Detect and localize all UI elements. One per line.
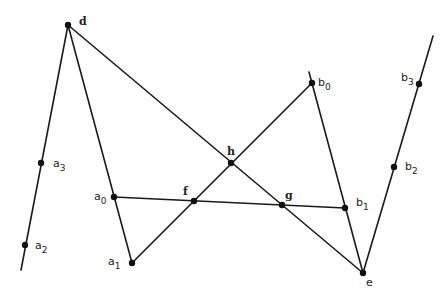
label-subscript: 3 bbox=[408, 77, 414, 87]
label-base: g bbox=[285, 189, 293, 202]
label-base: h bbox=[227, 145, 235, 158]
point-h bbox=[228, 160, 234, 166]
point-b0 bbox=[309, 80, 315, 86]
segment-line bbox=[363, 36, 433, 273]
segment-line bbox=[132, 83, 312, 263]
label-subscript: 0 bbox=[101, 196, 107, 206]
point-a1 bbox=[129, 260, 135, 266]
label-b2: b2 bbox=[405, 160, 418, 176]
label-g: g bbox=[285, 189, 293, 202]
point-a0 bbox=[111, 194, 117, 200]
label-base: f bbox=[183, 185, 189, 198]
segment-line bbox=[21, 25, 68, 270]
point-g bbox=[279, 202, 285, 208]
diagram-canvas: da3a2a0a1fhgb0b1b2b3e bbox=[0, 0, 448, 296]
label-base: a bbox=[53, 157, 60, 170]
label-b3: b3 bbox=[401, 71, 414, 87]
label-subscript: 0 bbox=[325, 82, 331, 92]
points-group bbox=[22, 22, 422, 276]
point-b2 bbox=[391, 164, 397, 170]
point-b3 bbox=[416, 81, 422, 87]
label-subscript: 1 bbox=[115, 261, 121, 271]
label-subscript: 1 bbox=[363, 202, 369, 212]
label-base: d bbox=[79, 15, 87, 28]
segment-line bbox=[68, 25, 363, 273]
labels-group: da3a2a0a1fhgb0b1b2b3e bbox=[35, 15, 418, 289]
point-d bbox=[65, 22, 71, 28]
label-subscript: 3 bbox=[60, 163, 66, 173]
label-subscript: 2 bbox=[42, 245, 48, 255]
label-base: e bbox=[366, 276, 373, 289]
label-b1: b1 bbox=[356, 196, 369, 212]
label-base: a bbox=[94, 190, 101, 203]
label-h: h bbox=[227, 145, 235, 158]
label-base: a bbox=[108, 255, 115, 268]
label-e: e bbox=[366, 276, 373, 289]
label-a3: a3 bbox=[53, 157, 65, 173]
label-a0: a0 bbox=[94, 190, 107, 206]
label-base: a bbox=[35, 239, 42, 252]
point-a3 bbox=[38, 160, 44, 166]
geometric-diagram: da3a2a0a1fhgb0b1b2b3e bbox=[0, 0, 448, 296]
segment-line bbox=[309, 72, 363, 273]
label-base: b bbox=[318, 76, 325, 89]
segment-line bbox=[114, 197, 345, 208]
label-base: b bbox=[405, 160, 412, 173]
label-subscript: 2 bbox=[412, 166, 418, 176]
point-b1 bbox=[342, 205, 348, 211]
label-f: f bbox=[183, 185, 189, 198]
label-b0: b0 bbox=[318, 76, 331, 92]
point-a2 bbox=[22, 242, 28, 248]
label-d: d bbox=[79, 15, 87, 28]
point-f bbox=[191, 198, 197, 204]
label-base: b bbox=[356, 196, 363, 209]
segment-line bbox=[68, 25, 132, 263]
label-a2: a2 bbox=[35, 239, 47, 255]
label-a1: a1 bbox=[108, 255, 120, 271]
label-base: b bbox=[401, 71, 408, 84]
